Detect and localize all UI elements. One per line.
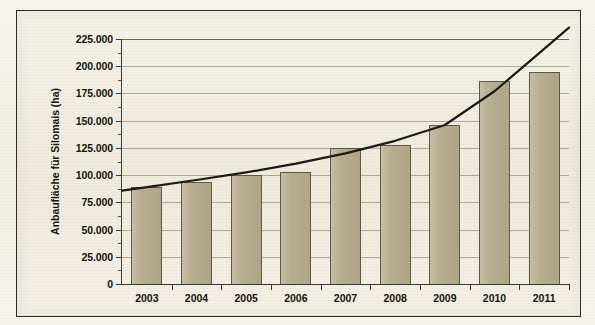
y-axis-minor-tick: [118, 270, 122, 271]
bar: [131, 187, 162, 284]
x-axis-tick: [569, 284, 570, 290]
y-axis-minor-tick: [118, 216, 122, 217]
y-axis-tick: [116, 230, 122, 231]
y-axis-tick: [116, 148, 122, 149]
y-axis-tick-label: 125.000: [76, 142, 113, 154]
y-axis-tick: [116, 175, 122, 176]
x-axis-tick: [271, 284, 272, 290]
scanned-page: Anbaufläche für Silomais (ha) 025.00050.…: [0, 0, 595, 325]
y-axis-tick-label: 175.000: [76, 87, 113, 99]
y-axis-tick-label: 100.000: [76, 169, 113, 181]
bar: [231, 175, 262, 284]
x-axis-tick: [519, 284, 520, 290]
y-axis-tick: [116, 121, 122, 122]
bar: [529, 72, 560, 284]
y-axis-tick: [116, 202, 122, 203]
x-axis-tick: [172, 284, 173, 290]
y-axis-tick: [116, 93, 122, 94]
bar: [429, 125, 460, 284]
x-axis-tick-label: 2010: [483, 292, 506, 304]
y-axis-minor-tick: [118, 80, 122, 81]
plot-area: 025.00050.00075.000100.000125.000150.000…: [121, 39, 569, 285]
y-axis-tick-label: 0: [107, 278, 113, 290]
x-axis-tick-label: 2009: [433, 292, 456, 304]
y-axis-minor-tick: [118, 189, 122, 190]
x-axis-tick-label: 2008: [383, 292, 406, 304]
y-axis-minor-tick: [118, 243, 122, 244]
bar: [280, 172, 311, 284]
bar: [479, 81, 510, 284]
bar: [380, 145, 411, 284]
x-axis-tick-label: 2004: [185, 292, 208, 304]
x-axis-tick-label: 2005: [234, 292, 257, 304]
y-axis-tick: [116, 66, 122, 67]
y-axis-minor-tick: [118, 134, 122, 135]
y-axis-tick: [116, 39, 122, 40]
x-axis-tick: [420, 284, 421, 290]
y-axis-tick-label: 25.000: [81, 251, 113, 263]
x-axis-tick: [370, 284, 371, 290]
x-axis-tick-label: 2007: [334, 292, 357, 304]
y-axis-tick-label: 75.000: [81, 196, 113, 208]
chart-frame: Anbaufläche für Silomais (ha) 025.00050.…: [16, 10, 581, 317]
y-axis-minor-tick: [118, 107, 122, 108]
gridline: [122, 66, 569, 67]
bar: [330, 148, 361, 284]
y-axis-tick: [116, 284, 122, 285]
x-axis-tick-label: 2011: [533, 292, 556, 304]
y-axis-tick: [116, 257, 122, 258]
x-axis-tick: [470, 284, 471, 290]
x-axis-tick: [321, 284, 322, 290]
x-axis-tick: [221, 284, 222, 290]
y-axis-tick-label: 200.000: [76, 60, 113, 72]
x-axis-tick-label: 2003: [135, 292, 158, 304]
y-axis-minor-tick: [118, 162, 122, 163]
y-axis-tick-label: 225.000: [76, 33, 113, 45]
x-axis-tick-label: 2006: [284, 292, 307, 304]
bar: [181, 182, 212, 284]
y-axis-tick-label: 50.000: [81, 224, 113, 236]
plot-top-rule: [122, 39, 569, 40]
y-axis-title: Anbaufläche für Silomais (ha): [47, 39, 63, 284]
y-axis-tick-label: 150.000: [76, 115, 113, 127]
y-axis-minor-tick: [118, 53, 122, 54]
